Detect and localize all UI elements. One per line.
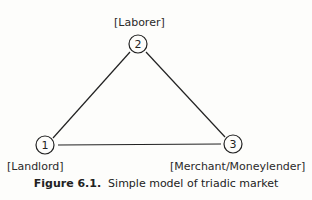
figure-caption: Figure 6.1. Simple model of triadic mark…: [0, 177, 312, 190]
node-1-number: 1: [42, 139, 49, 152]
node-3-number: 3: [230, 138, 237, 151]
node-2-label: [Laborer]: [114, 16, 165, 29]
caption-number: Figure 6.1.: [34, 177, 101, 190]
caption-text: Simple model of triadic market: [108, 177, 278, 190]
edge-1-3: [58, 144, 221, 145]
edge-2-3: [146, 52, 225, 137]
node-3-label: [Merchant/Moneylender]: [170, 160, 305, 173]
node-2-number: 2: [135, 38, 142, 51]
edge-1-2: [53, 52, 130, 138]
node-1-label: [Landlord]: [7, 160, 64, 173]
